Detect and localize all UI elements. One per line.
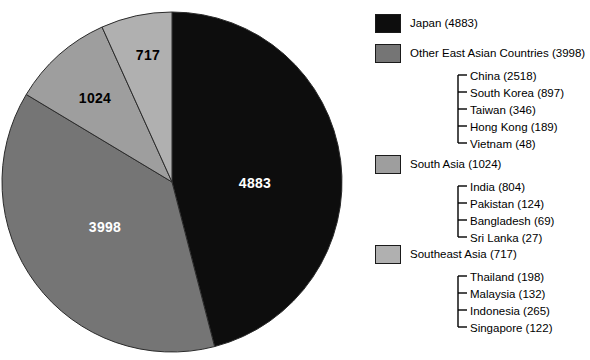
legend-child-label[interactable]: Malaysia (132) bbox=[470, 288, 545, 300]
pie-slice-value-label: 717 bbox=[136, 47, 160, 63]
legend-child-label[interactable]: Singapore (122) bbox=[470, 322, 552, 334]
legend: Japan (4883)Other East Asian Countries (… bbox=[370, 0, 590, 360]
legend-child-label[interactable]: Indonesia (265) bbox=[470, 305, 550, 317]
pie-svg bbox=[0, 0, 370, 360]
pie-slice-value-label: 1024 bbox=[79, 90, 111, 106]
legend-child-label[interactable]: Thailand (198) bbox=[470, 271, 544, 283]
pie-chart-area: 488339981024717 bbox=[0, 0, 370, 360]
pie-chart-figure: 488339981024717 Japan (4883)Other East A… bbox=[0, 0, 590, 360]
pie-slice-value-label: 3998 bbox=[89, 219, 121, 235]
pie-slice-value-label: 4883 bbox=[239, 175, 271, 191]
